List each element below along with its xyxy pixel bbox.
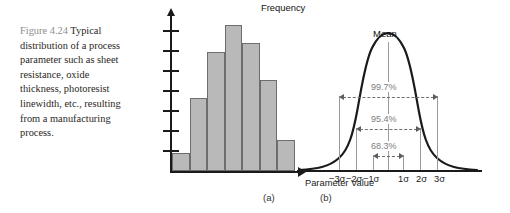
panel-tag-a: (a)	[263, 192, 275, 203]
sigma-tick-label: 1σ	[398, 174, 409, 184]
guide-line-minus2sigma	[356, 128, 357, 170]
mean-label: Mean	[373, 28, 397, 39]
figure-container: Figure 4.24 Typical distribution of a pr…	[0, 0, 510, 213]
figure-caption: Figure 4.24 Typical distribution of a pr…	[20, 24, 132, 141]
guide-line-plus2sigma	[420, 128, 421, 170]
sigma-tick-label: −2σ	[346, 174, 362, 184]
arrowhead-right-icon	[433, 94, 438, 100]
y-tick	[163, 130, 179, 132]
span-arrow-99-7	[339, 97, 438, 98]
histogram-bar	[172, 153, 190, 171]
histogram-bar	[242, 43, 260, 171]
histogram-bar	[207, 52, 225, 171]
figure-number: Figure 4.24	[20, 25, 68, 36]
arrowhead-right-icon	[399, 153, 404, 159]
panel-b-normal-distribution: 99.7% 95.4% 68.3% Mean −3σ −2σ −1σ 1σ 2σ…	[295, 0, 510, 213]
guide-line-plus3sigma	[437, 96, 438, 170]
dashed-line	[377, 156, 400, 157]
y-tick	[163, 30, 179, 32]
panel-a-histogram: Frequency Parameter Value (a)	[130, 0, 295, 213]
sigma-tick-label: 2σ	[416, 174, 427, 184]
dashed-line	[343, 97, 434, 98]
y-axis-line	[170, 14, 172, 172]
histogram-bar	[190, 98, 208, 171]
interval-label-95-4: 95.4%	[369, 114, 399, 124]
histogram-bar	[225, 25, 243, 171]
span-arrow-95-4	[356, 129, 421, 130]
figure-caption-text: Typical distribution of a process parame…	[20, 25, 121, 138]
sigma-tick-label: 3σ	[434, 174, 445, 184]
x-axis-line	[170, 171, 300, 173]
arrowhead-right-icon	[416, 126, 421, 132]
y-tick	[163, 50, 179, 52]
histogram-bar	[260, 80, 278, 171]
histogram-bar	[277, 140, 295, 171]
dashed-line	[360, 129, 417, 130]
panel-tag-b: (b)	[320, 192, 332, 203]
guide-line-minus3sigma	[339, 96, 340, 170]
y-tick	[163, 150, 179, 152]
y-tick	[163, 110, 179, 112]
interval-label-68-3: 68.3%	[369, 141, 399, 151]
sigma-tick-label: −3σ	[329, 174, 345, 184]
interval-label-99-7: 99.7%	[369, 82, 399, 92]
span-arrow-68-3	[373, 156, 404, 157]
sigma-tick-label: −1σ	[363, 174, 379, 184]
y-tick	[163, 70, 179, 72]
y-tick	[163, 90, 179, 92]
